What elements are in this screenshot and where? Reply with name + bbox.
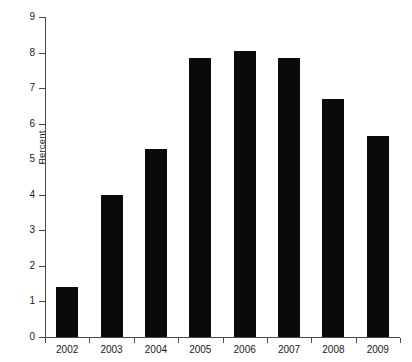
x-axis-tick-label: 2004	[133, 345, 179, 355]
x-axis-tick-label: 2006	[222, 345, 268, 355]
y-axis-tick-label: 4	[20, 190, 35, 200]
y-axis-tick	[39, 17, 45, 18]
bar	[145, 149, 167, 337]
bar	[367, 136, 389, 337]
x-axis-tick	[134, 338, 135, 343]
y-axis-tick-label: 8	[20, 48, 35, 58]
y-axis-tick-label: 1	[20, 296, 35, 306]
y-axis-tick-label: 7	[20, 83, 35, 93]
x-axis-tick	[178, 338, 179, 343]
y-axis-tick-label: 6	[20, 119, 35, 129]
bar	[189, 58, 211, 337]
bar	[278, 58, 300, 337]
x-axis-tick-label: 2003	[89, 345, 135, 355]
x-axis-tick	[45, 338, 46, 343]
y-axis-tick	[39, 53, 45, 54]
y-axis-tick	[39, 230, 45, 231]
y-axis-tick	[39, 88, 45, 89]
bar	[234, 51, 256, 337]
x-axis-tick-label: 2009	[355, 345, 401, 355]
y-axis-tick	[39, 266, 45, 267]
y-axis-tick-label: 2	[20, 261, 35, 271]
x-axis-tick	[89, 338, 90, 343]
y-axis-tick-label: 5	[20, 154, 35, 164]
y-axis-tick	[39, 159, 45, 160]
y-axis-tick	[39, 301, 45, 302]
x-axis-tick	[267, 338, 268, 343]
x-axis-tick-label: 2008	[310, 345, 356, 355]
x-axis-tick	[400, 338, 401, 343]
y-axis-tick-label: 3	[20, 225, 35, 235]
x-axis-tick-label: 2002	[44, 345, 90, 355]
x-axis-tick-label: 2005	[177, 345, 223, 355]
bar	[322, 99, 344, 337]
bar-chart: Percent 0123456789 200220032004200520062…	[0, 0, 412, 362]
y-axis-tick-label: 9	[20, 12, 35, 22]
y-axis-tick-label: 0	[20, 332, 35, 342]
x-axis-tick	[311, 338, 312, 343]
x-axis-tick	[356, 338, 357, 343]
x-axis-tick-label: 2007	[266, 345, 312, 355]
y-axis-tick	[39, 124, 45, 125]
y-axis-tick	[39, 195, 45, 196]
bar	[101, 195, 123, 337]
x-axis-tick	[223, 338, 224, 343]
bar	[56, 287, 78, 337]
y-axis-line	[45, 17, 46, 338]
